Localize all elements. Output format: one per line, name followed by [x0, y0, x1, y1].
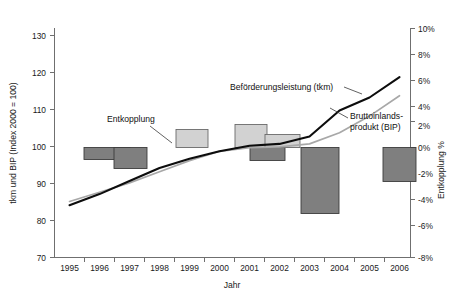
bar-1997	[114, 148, 147, 169]
left-tick-label-120: 120	[32, 68, 46, 78]
right-tick-label-0: 0%	[418, 143, 431, 153]
x-tick-label-2005: 2005	[360, 263, 379, 273]
bar-2006	[383, 148, 416, 182]
annotation-entkopplung-label: Entkopplung	[107, 114, 155, 124]
right-tick-label-neg4: -4%	[418, 195, 433, 205]
right-tick-label-10: 10%	[418, 24, 435, 34]
x-tick-label-1995: 1995	[60, 263, 79, 273]
x-tick-label-1996: 1996	[90, 263, 109, 273]
x-tick-label-2000: 2000	[210, 263, 229, 273]
x-tick-label-2006: 2006	[390, 263, 409, 273]
left-axis-title: tkm und BIP (Index 2000 = 100)	[8, 82, 18, 204]
annotation-bip-label-line2: produkt (BIP)	[350, 122, 401, 132]
right-tick-label-6: 6%	[418, 76, 431, 86]
bar-2002	[250, 148, 285, 161]
right-tick-label-2: 2%	[418, 121, 431, 131]
left-tick-label-80: 80	[37, 216, 47, 226]
chart-figure: 130 120 110 100 90 80 70 tkm und BIP (In…	[0, 0, 452, 295]
left-tick-label-130: 130	[32, 31, 46, 41]
x-tick-label-1998: 1998	[150, 263, 169, 273]
x-axis-title: Jahr	[224, 280, 241, 290]
chart-svg: 130 120 110 100 90 80 70 tkm und BIP (In…	[0, 0, 452, 295]
left-tick-label-90: 90	[37, 179, 47, 189]
x-tick-label-1999: 1999	[180, 263, 199, 273]
x-tick-label-2002: 2002	[270, 263, 289, 273]
x-tick-label-2004: 2004	[330, 263, 349, 273]
bar-2004	[301, 148, 339, 214]
right-tick-label-neg6: -6%	[418, 221, 433, 231]
right-tick-label-neg2: -2%	[418, 169, 433, 179]
x-tick-label-2003: 2003	[300, 263, 319, 273]
annotation-tkm-label: Beförderungsleistung (tkm)	[230, 82, 333, 92]
annotation-bip-label-line1: Bruttoinlands-	[350, 111, 403, 121]
left-tick-label-110: 110	[33, 105, 47, 115]
bar-1999	[176, 130, 208, 148]
x-tick-label-1997: 1997	[120, 263, 139, 273]
left-tick-label-70: 70	[37, 253, 47, 263]
right-tick-label-neg8: -8%	[418, 253, 433, 263]
right-tick-label-8: 8%	[418, 50, 431, 60]
right-tick-label-4: 4%	[418, 102, 431, 112]
left-tick-label-100: 100	[32, 142, 46, 152]
right-axis-title: Entkopplung %	[436, 141, 446, 199]
x-tick-label-2001: 2001	[240, 263, 259, 273]
